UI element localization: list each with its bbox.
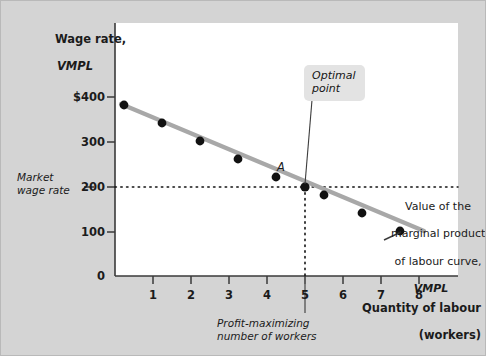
optimal-point-callout: Optimal point <box>304 65 365 101</box>
profit-maximizing-label: Profit-maximizing number of workers <box>217 317 343 343</box>
x-tick-label-5: 5 <box>293 288 317 302</box>
market-wage-rate-label: Market wage rate <box>17 171 83 197</box>
x-tick-label-4: 4 <box>255 288 279 302</box>
vmpl-curve-label-line3: of labour curve, <box>395 255 482 268</box>
x-tick-label-1: 1 <box>141 288 165 302</box>
x-tick-label-2: 2 <box>179 288 203 302</box>
x-tick-label-3: 3 <box>217 288 241 302</box>
x-axis-title-sub: (workers) <box>419 328 481 342</box>
vmpl-curve-label-line1: Value of the <box>405 200 471 213</box>
point-a-label: A <box>277 161 285 175</box>
x-axis-title-main: Quantity of labour <box>362 301 481 315</box>
x-axis-title: Quantity of labour (workers) <box>331 288 481 356</box>
economics-figure: Wage rate, VMPL $400 300 200 100 0 1 2 3… <box>0 0 486 356</box>
vmpl-curve-label-line2: marginal product <box>391 227 485 240</box>
